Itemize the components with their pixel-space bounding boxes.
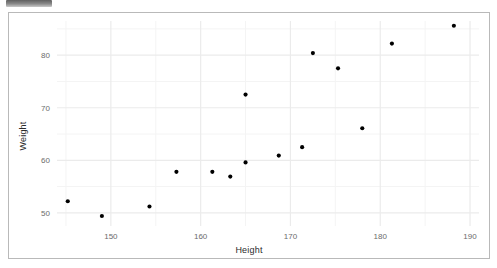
x-tick-label: 180 <box>374 232 388 241</box>
y-tick-label: 70 <box>41 104 50 113</box>
x-tick-label: 170 <box>284 232 298 241</box>
data-point <box>277 153 281 157</box>
data-point <box>228 175 232 179</box>
data-point <box>360 126 364 130</box>
data-point <box>147 204 151 208</box>
data-point <box>210 170 214 174</box>
data-point <box>452 24 456 28</box>
x-tick-label: 190 <box>463 232 477 241</box>
y-axis-title: Weight <box>18 106 28 166</box>
window-chrome-chip <box>6 0 52 7</box>
scatter-plot-canvas: 15016017018019080706050 <box>9 13 491 260</box>
x-tick-label: 160 <box>194 232 208 241</box>
data-point <box>311 51 315 55</box>
data-point <box>390 42 394 46</box>
x-axis-title: Height <box>9 245 489 255</box>
x-tick-label: 150 <box>104 232 118 241</box>
data-point <box>243 93 247 97</box>
data-point <box>300 145 304 149</box>
data-point <box>336 66 340 70</box>
y-tick-label: 60 <box>41 156 50 165</box>
y-tick-label: 50 <box>41 209 50 218</box>
plot-panel <box>57 21 479 226</box>
chart-figure-frame: 15016017018019080706050 Weight Height <box>8 12 490 259</box>
data-point <box>66 199 70 203</box>
data-point <box>174 170 178 174</box>
data-point <box>243 160 247 164</box>
data-point <box>100 214 104 218</box>
y-tick-label: 80 <box>41 51 50 60</box>
plot-svg: 15016017018019080706050 <box>9 13 491 260</box>
